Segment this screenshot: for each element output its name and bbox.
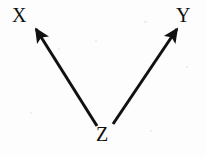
node-label-z: Z bbox=[96, 124, 108, 144]
edge-z-to-x bbox=[36, 29, 97, 126]
node-label-y: Y bbox=[176, 5, 190, 25]
diagram-canvas: X Y Z bbox=[0, 0, 206, 156]
edge-z-to-y bbox=[113, 29, 177, 124]
node-label-x: X bbox=[12, 5, 26, 25]
